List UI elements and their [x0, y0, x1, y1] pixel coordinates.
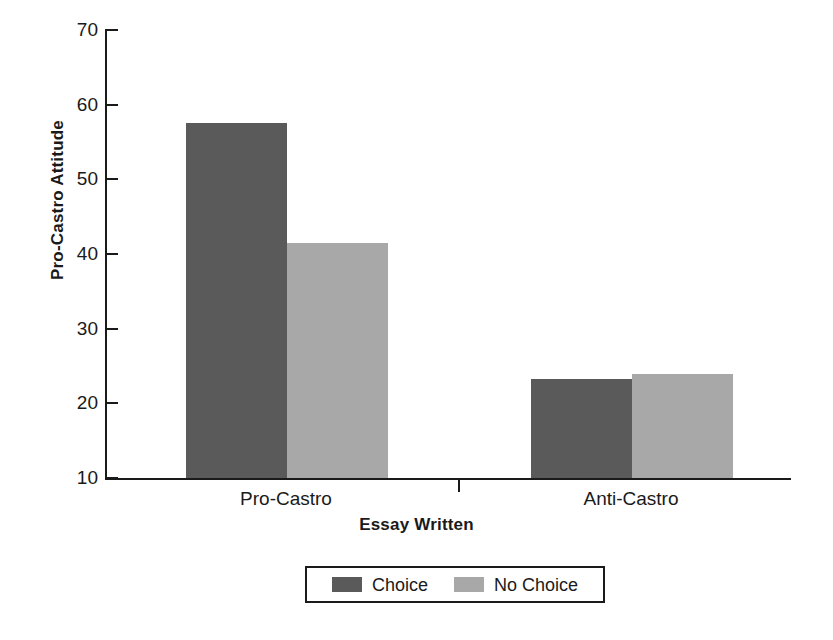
- chart-legend: ChoiceNo Choice: [305, 566, 605, 603]
- legend-swatch-icon: [332, 577, 362, 592]
- legend-label: No Choice: [494, 576, 578, 594]
- x-axis-category-label-1: Anti-Castro: [531, 488, 731, 510]
- plot-area: [105, 30, 791, 478]
- bar-chart-figure: Pro-Castro Attitude 70605040302010 Pro-C…: [0, 0, 833, 640]
- bar: [632, 374, 733, 478]
- y-axis-tick-label: 20: [52, 393, 98, 413]
- bar: [186, 123, 287, 478]
- x-axis-line: [105, 478, 791, 480]
- y-axis-tick-label: 50: [52, 169, 98, 189]
- y-axis-tick-label: 60: [52, 95, 98, 115]
- y-axis-tick-label: 40: [52, 244, 98, 264]
- bar: [531, 379, 632, 478]
- y-axis-tick-label: 30: [52, 319, 98, 339]
- x-axis-category-label-0: Pro-Castro: [186, 488, 386, 510]
- bar: [287, 243, 388, 478]
- x-axis-mid-tick: [458, 480, 460, 492]
- legend-label: Choice: [372, 576, 428, 594]
- y-axis-title: Pro-Castro Attitude: [48, 80, 68, 320]
- y-axis-tick-label: 10: [52, 468, 98, 488]
- legend-entry: Choice: [332, 576, 428, 594]
- legend-entry: No Choice: [454, 576, 578, 594]
- x-axis-title: Essay Written: [0, 515, 833, 535]
- legend-swatch-icon: [454, 577, 484, 592]
- y-axis-tick-label: 70: [52, 20, 98, 40]
